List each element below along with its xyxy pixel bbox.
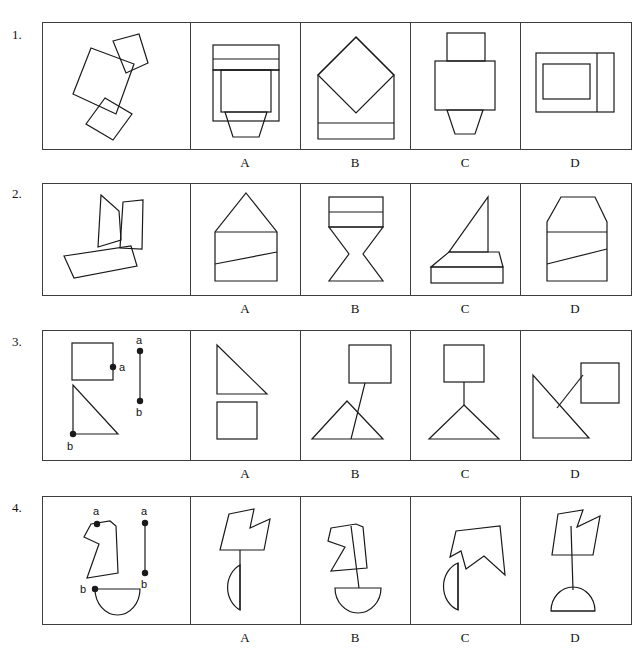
shape-triangle [312, 401, 383, 439]
shape-notched-polygon [552, 510, 600, 555]
row-2-option-a-panel[interactable] [191, 184, 301, 295]
row-1-label-d: D [520, 156, 630, 169]
row-2-option-b-panel[interactable] [301, 184, 411, 295]
row-4-stimulus-panel: a b a b [43, 497, 191, 624]
row-3-option-a-figure [191, 331, 301, 460]
row-1-label-b: B [300, 156, 410, 169]
row-3-label-b: B [300, 467, 410, 480]
shape-triangle [217, 345, 267, 394]
row-4-option-b-panel[interactable] [301, 497, 411, 624]
shape-square [72, 343, 113, 380]
row-1-option-b-panel[interactable] [301, 23, 411, 149]
row-1-option-a-panel[interactable] [191, 23, 301, 149]
row-4-option-c-figure [411, 497, 521, 624]
row-number-4: 4. [12, 501, 22, 514]
shape-half-disc [95, 589, 140, 615]
shape-right-triangle [73, 385, 118, 434]
row-3-stimulus-points [70, 348, 143, 437]
row-2-stimulus-panel [43, 184, 191, 295]
shape-narrow-quad [120, 200, 143, 249]
row-1-option-d-figure [521, 23, 631, 149]
row-3-option-c-figure [411, 331, 521, 460]
row-4-label-a: A [190, 631, 300, 644]
point-b-marker [70, 431, 76, 437]
shape-half-disc [335, 588, 381, 613]
shape-top-band [213, 45, 279, 70]
row-1-label-a: A [190, 156, 300, 169]
row-4-option-a-panel[interactable] [191, 497, 301, 624]
row-3-label-c: C [410, 467, 520, 480]
shape-slanted-line [215, 252, 277, 264]
row-1-stimulus-panel [43, 23, 191, 149]
shape-slanted-line [547, 249, 607, 264]
row-2-option-d-panel[interactable] [521, 184, 631, 295]
row-4-option-d-figure [521, 497, 631, 624]
connector-point-b-marker [137, 398, 143, 404]
row-2-label-a: A [190, 302, 300, 315]
row-2-option-labels: A B C D [42, 302, 630, 315]
row-1-option-b-figure [301, 23, 411, 149]
row-2-option-a-figure [191, 184, 301, 295]
connector-point-b-marker [142, 570, 148, 576]
shape-sail-triangle [449, 197, 488, 252]
row-4-label-c: C [410, 631, 520, 644]
shape-bottom-rect [431, 267, 503, 283]
shape-body-rect [213, 70, 279, 121]
row-2-label-d: D [520, 302, 630, 315]
row-4-option-b-figure [301, 497, 411, 624]
row-4-option-a-figure [191, 497, 301, 624]
shape-bottom-tab [447, 110, 483, 134]
shape-triangle [429, 405, 499, 439]
label-connector-b: b [141, 578, 147, 590]
shape-connector-segment [351, 383, 365, 439]
shape-body-rect [435, 61, 495, 110]
shape-square [349, 345, 391, 383]
shape-house [318, 37, 394, 139]
row-4-label-d: D [520, 631, 630, 644]
row-1-option-a-figure [191, 23, 301, 149]
shape-half-disc [228, 565, 240, 610]
label-connector-a: a [141, 505, 148, 517]
row-number-1: 1. [12, 28, 22, 41]
row-1-label-c: C [410, 156, 520, 169]
row-3-option-b-figure [301, 331, 411, 460]
row-4-panels: a b a b [42, 496, 632, 625]
shape-connector-segment [351, 526, 359, 588]
row-4-option-c-panel[interactable] [411, 497, 521, 624]
shape-slanted-bar [64, 246, 137, 278]
row-2-label-b: B [300, 302, 410, 315]
worksheet: 1. [0, 0, 642, 650]
shape-diamond [318, 37, 394, 113]
shape-small-tilted-square [86, 98, 132, 140]
point-a-marker [110, 364, 116, 370]
row-1-panels [42, 22, 632, 150]
row-3-label-a: A [190, 467, 300, 480]
shape-chamfered-body [547, 197, 607, 281]
shape-bottom-tab [225, 112, 267, 137]
row-1-option-c-figure [411, 23, 521, 149]
row-4-option-d-panel[interactable] [521, 497, 631, 624]
row-4-stimulus-points [92, 520, 148, 592]
row-3-option-c-panel[interactable] [411, 331, 521, 460]
row-3-option-a-panel[interactable] [191, 331, 301, 460]
row-2-stimulus-figure [43, 184, 191, 295]
row-2-option-c-figure [411, 184, 521, 295]
row-4-option-labels: A B C D [42, 631, 630, 644]
row-1-stimulus-figure [43, 23, 191, 149]
row-3-label-d: D [520, 467, 630, 480]
shape-hourglass [329, 227, 383, 281]
row-3-option-d-panel[interactable] [521, 331, 631, 460]
shape-small-trapezoid [113, 34, 148, 73]
row-2-panels [42, 183, 632, 296]
row-3-option-b-panel[interactable] [301, 331, 411, 460]
row-number-2: 2. [12, 187, 22, 200]
row-2-option-c-panel[interactable] [411, 184, 521, 295]
row-1-option-labels: A B C D [42, 156, 630, 169]
row-3-stimulus-panel: a b a b [43, 331, 191, 460]
row-3-panels: a b a b [42, 330, 632, 461]
row-1-option-c-panel[interactable] [411, 23, 521, 149]
shape-connector-segment [557, 375, 583, 408]
row-1-option-d-panel[interactable] [521, 23, 631, 149]
shape-notched-polygon [328, 524, 367, 571]
row-2-option-d-figure [521, 184, 631, 295]
